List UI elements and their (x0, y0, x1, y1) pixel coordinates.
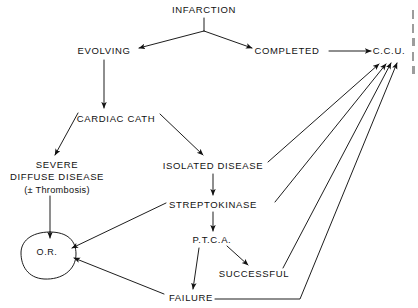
page-edge-artifact (412, 38, 415, 46)
edge-streptokinase-or (72, 203, 166, 248)
node-cardiac-cath: CARDIAC CATH (77, 113, 155, 125)
severe-line-2: DIFFUSE DISEASE (10, 172, 104, 183)
page-edge-artifact (412, 24, 414, 33)
edge-cardiaccath-severe (55, 113, 78, 155)
flowchart-figure: INFARCTION EVOLVING COMPLETED C.C.U. CAR… (0, 0, 418, 308)
severe-line-3: (± Thrombosis) (10, 184, 104, 196)
node-isolated-disease: ISOLATED DISEASE (163, 160, 264, 172)
edge-failure-or (74, 258, 164, 294)
page-edge-artifact (412, 66, 415, 74)
page-edge-artifact (412, 10, 414, 19)
node-or-label: O.R. (37, 247, 58, 257)
node-evolving: EVOLVING (77, 45, 130, 57)
node-ptca: P.T.C.A. (193, 234, 232, 246)
node-infarction: INFARCTION (172, 4, 236, 16)
edge-failure-ccu (215, 63, 397, 299)
edge-infarction-completed (204, 31, 252, 48)
edge-ptca-failure (193, 248, 199, 289)
node-severe-diffuse-disease: SEVERE DIFFUSE DISEASE (± Thrombosis) (10, 159, 104, 196)
flowchart-connectors (0, 0, 418, 308)
node-ccu: C.C.U. (373, 45, 405, 57)
edge-successful-ccu (283, 63, 391, 268)
node-completed: COMPLETED (255, 45, 320, 57)
edge-ptca-successful (227, 246, 248, 265)
node-streptokinase: STREPTOKINASE (169, 199, 257, 211)
page-edge-artifact (412, 52, 414, 61)
severe-line-1: SEVERE (36, 159, 78, 170)
node-failure: FAILURE (169, 292, 213, 304)
node-successful: SUCCESSFUL (219, 268, 289, 280)
edge-infarction-evolving (139, 31, 204, 48)
edge-streptokinase-ccu (275, 64, 386, 202)
edge-cardiaccath-isolated (160, 114, 203, 155)
